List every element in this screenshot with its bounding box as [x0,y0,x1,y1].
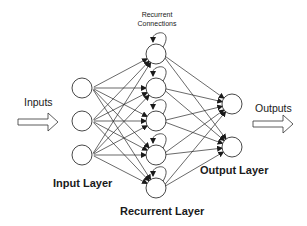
connection-edge [164,148,222,155]
connection-edge [93,95,149,153]
input-node [72,111,92,131]
recurrent-connections-label: Recurrent Connections [130,10,184,28]
input-node [72,145,92,165]
connection-edge [164,110,224,154]
connection-edge [94,93,147,121]
recurrent-connections-line2: Connections [130,19,184,28]
recurrent-layer-label: Recurrent Layer [120,205,204,217]
connection-edge [94,122,147,150]
recurrent-node [146,78,166,98]
connection-edge [164,106,222,120]
recurrent-node [146,178,166,198]
recurrent-node [146,44,166,64]
input-node [72,78,92,98]
inputs-label: Inputs [24,96,53,108]
connection-edge [93,62,151,153]
outputs-label: Outputs [255,102,292,114]
recurrent-node [146,111,166,131]
output-node [222,137,242,157]
connection-edge [164,55,224,98]
input-layer-label: Input Layer [53,177,112,189]
output-layer-label: Output Layer [200,164,268,176]
inputs-arrow-icon [18,113,58,131]
connection-edge [93,122,149,180]
outputs-arrow-icon [253,115,293,133]
connection-edge [93,61,149,119]
connection-edge [94,59,147,87]
output-node [222,94,242,114]
recurrent-node [146,145,166,165]
recurrent-connections-line1: Recurrent [130,10,184,19]
